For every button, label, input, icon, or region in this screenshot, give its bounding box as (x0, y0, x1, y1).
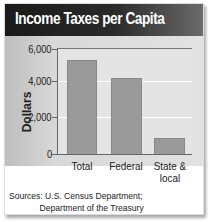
xlabel-state-line1: State & (150, 160, 190, 172)
source-line-2: Department of the Treasury (9, 202, 144, 214)
x-axis (52, 154, 192, 155)
source-note: Sources: U.S. Census Department; Departm… (9, 190, 144, 214)
ytick-2000 (52, 117, 57, 118)
xlabel-total: Total (62, 160, 102, 172)
bar-state-local (154, 138, 185, 155)
chart-title: Income Taxes per Capita (15, 10, 164, 28)
xlabel-state-line2: local (150, 172, 190, 184)
bar-federal (111, 78, 142, 155)
ytick-label-6000: 6,000 (29, 43, 52, 55)
ytick-label-0: 0 (47, 148, 52, 160)
xlabel-state: State & local (150, 160, 190, 184)
chart-header: Income Taxes per Capita (5, 4, 203, 36)
y-axis-title: Dollars (20, 87, 34, 137)
ytick-6000 (52, 49, 57, 50)
ytick-label-4000: 4,000 (29, 75, 52, 87)
source-line-1: Sources: U.S. Census Department; (9, 190, 144, 202)
y-axis (57, 48, 58, 155)
xlabel-federal: Federal (106, 160, 146, 172)
ytick-4000 (52, 81, 57, 82)
bar-total (67, 60, 97, 155)
